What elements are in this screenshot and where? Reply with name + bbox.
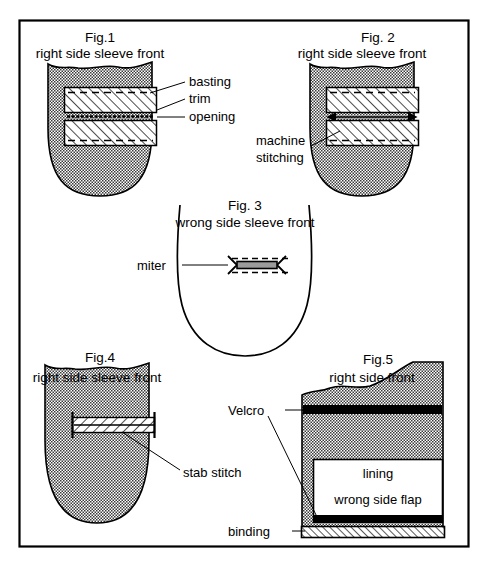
fig1-label-opening: opening [189,109,235,124]
fig2-lower-trim [327,121,419,146]
fig5-label-lining: lining [363,466,393,481]
figure-1-group: Fig.1 right side sleeve front basting tr… [36,30,235,196]
fig5-title: Fig.5 [363,352,393,367]
fig2-upper-trim [327,88,419,113]
fig5-velcro-lower [313,515,443,523]
fig5-subtitle: right side front [329,370,415,385]
fig2-title: Fig. 2 [361,30,395,45]
fig3-miter-shape [228,256,291,274]
fig3-label-miter: miter [137,258,167,273]
fig2-label-stitching: stitching [256,150,304,165]
figure-4-group: Fig.4 right side sleeve front stab stitc… [33,350,242,523]
fig2-subtitle: right side sleeve front [298,46,427,61]
fig4-title: Fig.4 [85,350,116,365]
fig5-binding-strip [302,527,445,538]
fig3-subtitle: wrong side sleeve front [175,215,315,230]
fig4-sleeve-body [45,363,149,523]
fig4-subtitle: right side sleeve front [33,370,162,385]
sewing-diagram-svg: Fig.1 right side sleeve front basting tr… [0,0,489,567]
fig1-upper-trim [65,88,157,113]
fig3-title: Fig. 3 [228,198,262,213]
fig2-label-machine: machine [256,133,305,148]
fig1-trim-leader [157,99,185,110]
fig5-label-binding: binding [228,524,270,539]
fig5-label-wrong-side-flap: wrong side flap [333,492,421,507]
fig1-label-trim: trim [189,91,211,106]
fig1-lower-trim [65,121,157,146]
figure-3-group: Fig. 3 wrong side sleeve front miter [137,198,315,356]
fig4-label-stab-stitch: stab stitch [183,465,242,480]
diagram-page: Fig.1 right side sleeve front basting tr… [0,0,489,567]
figure-2-group: Fig. 2 right side sleeve front machine s… [256,30,426,196]
fig1-subtitle: right side sleeve front [36,46,165,61]
figure-5-group: Fig.5 right side front Velcro lining wro… [228,352,445,539]
fig5-label-velcro: Velcro [228,403,264,418]
fig1-label-basting: basting [189,74,231,89]
fig5-velcro-upper [303,405,442,414]
fig1-title: Fig.1 [85,30,115,45]
